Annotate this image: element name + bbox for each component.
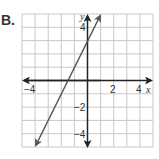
y-tick-neg4: −4 <box>74 129 86 140</box>
graph-line-down <box>36 81 68 146</box>
y-axis-label: y <box>79 11 85 22</box>
coordinate-plane: −4 2 4 x 4 y −2 −4 <box>0 0 159 159</box>
x-axis-label: x <box>145 84 151 95</box>
y-tick-neg2: −2 <box>74 102 86 113</box>
x-tick-2: 2 <box>110 84 116 95</box>
x-tick-4: 4 <box>136 84 142 95</box>
y-tick-4: 4 <box>80 22 86 33</box>
x-tick-neg4: −4 <box>24 84 36 95</box>
